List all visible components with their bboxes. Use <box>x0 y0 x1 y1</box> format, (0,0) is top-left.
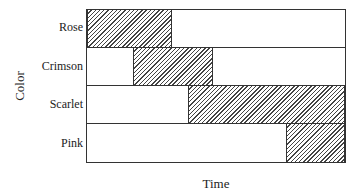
gantt-row-crimson <box>87 48 345 86</box>
chart-plot-area <box>86 9 346 163</box>
y-axis-title: Color <box>12 71 28 101</box>
gantt-bar-scarlet <box>188 86 345 123</box>
gantt-bar-pink <box>286 124 345 162</box>
row-label-rose: Rose <box>59 20 83 35</box>
x-axis-title: Time <box>203 176 230 192</box>
row-label-scarlet: Scarlet <box>50 97 83 112</box>
row-label-pink: Pink <box>61 136 83 151</box>
gantt-bar-crimson <box>133 48 213 85</box>
gantt-row-pink <box>87 124 345 162</box>
row-label-crimson: Crimson <box>42 59 83 74</box>
gantt-row-rose <box>87 10 345 48</box>
gantt-bar-rose <box>87 10 172 47</box>
gantt-row-scarlet <box>87 86 345 124</box>
